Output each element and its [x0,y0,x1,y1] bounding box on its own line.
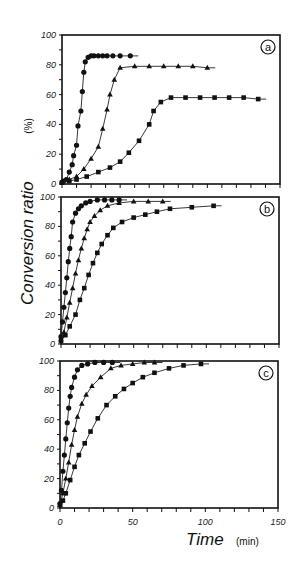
marker-square [212,95,217,100]
y-tick-label: 100 [40,192,55,202]
y-tick-label: 100 [39,356,54,366]
marker-circle [85,361,90,366]
marker-circle [80,89,85,94]
y-tick-label: 60 [45,251,55,261]
y-tick-label: 60 [46,90,56,100]
plot-frame [61,197,279,344]
marker-circle [74,143,79,148]
svg-text:b: b [264,203,270,215]
marker-triangle [107,92,113,97]
panel-c: 020406080100050100150c [39,356,286,527]
marker-square [64,491,69,496]
series-circles [59,53,138,185]
plot-frame [60,361,278,508]
marker-square [122,387,127,392]
marker-triangle [161,63,167,68]
marker-circle [128,53,133,58]
marker-square [99,242,104,247]
marker-square [59,339,64,344]
x-tick-label: 150 [270,517,285,527]
conversion-ratio-figure: 020406080100a020406080100b02040608010005… [0,0,297,578]
series-line [62,98,266,183]
series-triangles [58,198,171,341]
marker-circle [69,385,74,390]
y-tick-label: 0 [50,339,55,349]
marker-circle [104,53,109,58]
marker-square [130,381,135,386]
marker-square [82,441,87,446]
y-tick-label: 0 [51,179,56,189]
marker-square [155,209,160,214]
marker-square [131,215,136,220]
marker-square [118,159,123,164]
series-squares [59,204,222,344]
marker-triangle [97,207,103,212]
marker-circle [92,360,97,365]
marker-circle [75,367,80,372]
marker-square [88,429,93,434]
marker-square [256,97,261,102]
marker-circle [102,197,107,202]
panel-label-c: c [259,366,273,380]
marker-square [104,403,109,408]
x-tick-label: 50 [128,517,138,527]
x-axis-unit: (min) [236,536,259,547]
marker-square [96,170,101,175]
marker-circle [83,59,88,64]
marker-circle [79,203,84,208]
marker-triangle [75,414,81,419]
y-axis-unit: (%) [23,118,34,134]
marker-square [74,177,79,182]
marker-square [86,273,91,278]
svg-text:c: c [263,367,269,379]
marker-triangle [131,198,137,203]
marker-circle [60,469,65,474]
marker-square [168,206,173,211]
marker-triangle [146,63,152,68]
marker-triangle [96,144,102,149]
marker-square [151,109,156,114]
marker-circle [72,375,77,380]
marker-square [227,95,232,100]
marker-circle [81,70,86,75]
marker-circle [67,169,72,174]
marker-triangle [63,476,69,481]
marker-circle [60,319,65,324]
marker-triangle [190,63,196,68]
marker-square [82,286,87,291]
marker-square [60,180,65,185]
marker-square [183,95,188,100]
marker-circle [67,246,72,251]
marker-circle [65,420,70,425]
marker-circle [101,360,106,365]
marker-circle [95,197,100,202]
marker-square [190,205,195,210]
marker-circle [61,305,66,310]
marker-square [63,333,68,338]
marker-circle [66,259,71,264]
marker-square [61,498,66,503]
marker-square [108,165,113,170]
marker-triangle [132,63,138,68]
marker-square [67,179,72,184]
x-tick-label: 100 [198,517,213,527]
y-tick-label: 0 [49,503,54,513]
marker-triangle [69,442,75,447]
marker-square [67,324,72,329]
marker-square [78,298,83,303]
marker-triangle [84,226,90,231]
panel-b: 020406080100b [40,192,279,349]
marker-circle [118,53,123,58]
y-tick-label: 100 [41,30,56,40]
marker-square [68,478,73,483]
marker-square [199,362,204,367]
marker-triangle [79,401,85,406]
marker-circle [87,199,92,204]
panel-a: 020406080100a [41,30,280,189]
marker-square [127,150,132,155]
marker-triangle [160,198,166,203]
marker-square [181,363,186,368]
series-line [61,206,222,341]
y-tick-label: 40 [44,444,54,454]
marker-square [95,416,100,421]
